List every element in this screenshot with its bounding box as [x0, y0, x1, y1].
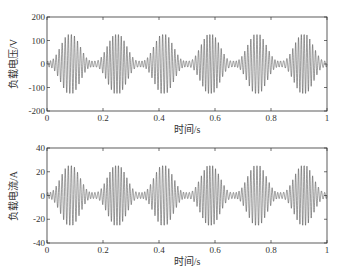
- x-tick-label: 0.8: [265, 113, 277, 123]
- x-tick-label: 0.2: [97, 245, 108, 255]
- y-tick-label: -200: [29, 106, 46, 116]
- voltage-plot: 00.20.40.60.81 2001000-100-200 时间/s 负载电压…: [7, 12, 329, 135]
- figure: 00.20.40.60.81 2001000-100-200 时间/s 负载电压…: [0, 0, 341, 273]
- voltage-x-ticks: 00.20.40.60.81: [45, 17, 330, 123]
- voltage-y-ticks: 2001000-100-200: [29, 12, 328, 116]
- voltage-y-label: 负载电压/V: [7, 38, 19, 89]
- x-tick-label: 0.2: [97, 113, 108, 123]
- x-tick-label: 1: [325, 245, 330, 255]
- y-tick-label: -20: [33, 214, 45, 224]
- x-tick-label: 1: [325, 113, 330, 123]
- x-tick-label: 0: [45, 113, 50, 123]
- y-tick-label: 0: [41, 191, 46, 201]
- current-x-ticks: 00.20.40.60.81: [45, 148, 330, 255]
- x-tick-label: 0.4: [153, 113, 165, 123]
- y-tick-label: 0: [41, 59, 46, 69]
- x-tick-label: 0.6: [209, 245, 221, 255]
- x-tick-label: 0: [45, 245, 50, 255]
- y-tick-label: 40: [36, 143, 46, 153]
- current-plot: 00.20.40.60.81 40200-20-40 时间/s 负载电流/A: [7, 143, 329, 267]
- y-tick-label: 200: [32, 12, 46, 22]
- current-y-label: 负载电流/A: [7, 170, 19, 221]
- current-x-label: 时间/s: [174, 255, 201, 267]
- y-tick-label: -100: [29, 83, 46, 93]
- x-tick-label: 0.6: [209, 113, 221, 123]
- current-waveform: [47, 166, 327, 225]
- x-tick-label: 0.4: [153, 245, 165, 255]
- y-tick-label: -40: [33, 238, 45, 248]
- voltage-waveform: [47, 35, 327, 94]
- x-tick-label: 0.8: [265, 245, 277, 255]
- y-tick-label: 100: [32, 36, 46, 46]
- voltage-x-label: 时间/s: [174, 123, 201, 135]
- y-tick-label: 20: [36, 167, 46, 177]
